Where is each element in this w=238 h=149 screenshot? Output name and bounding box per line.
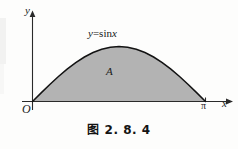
curve-equation-label: y=sinx: [88, 28, 117, 39]
figure-caption-number: 2. 8. 4: [105, 123, 151, 137]
curve-equation-function: sin: [99, 27, 112, 39]
x-axis-label: x: [222, 98, 227, 109]
shaded-area-region: [33, 47, 206, 102]
curve-equation-argument: x: [112, 27, 117, 39]
y-axis-label: y: [25, 5, 30, 16]
x-axis-arrowhead: [226, 99, 233, 105]
region-label-A: A: [106, 66, 113, 77]
figure-caption-cjk: 图: [87, 123, 100, 137]
origin-label: O: [22, 103, 31, 115]
x-tick-label-pi: π: [201, 101, 206, 111]
y-axis-arrowhead: [30, 11, 36, 18]
figure-container: y x O π A y=sinx 图 2. 8. 4: [0, 0, 238, 149]
figure-caption: 图 2. 8. 4: [0, 120, 238, 137]
